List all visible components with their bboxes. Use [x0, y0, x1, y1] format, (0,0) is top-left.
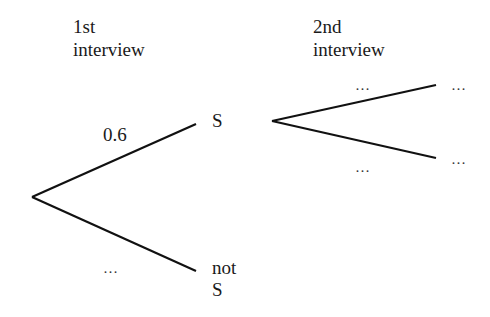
stage-2-heading-line2: interview: [313, 40, 385, 59]
stage-1-heading-line1: 1st: [73, 17, 95, 36]
outcome-first-lower-line2: S: [212, 280, 223, 299]
branch-second-lower: [272, 121, 436, 158]
prob-second-upper: …: [355, 78, 371, 93]
outcome-first-upper: S: [212, 111, 223, 130]
prob-first-upper: 0.6: [103, 125, 127, 144]
branch-second-upper: [272, 85, 436, 121]
outcome-first-lower-line1: not: [212, 258, 236, 277]
stage-1-heading-line2: interview: [73, 40, 145, 59]
outcome-second-lower: …: [451, 152, 467, 167]
stage-2-heading-line1: 2nd: [313, 17, 342, 36]
outcome-second-upper: …: [451, 78, 467, 93]
prob-first-lower: …: [103, 261, 119, 276]
prob-second-lower: …: [355, 160, 371, 175]
